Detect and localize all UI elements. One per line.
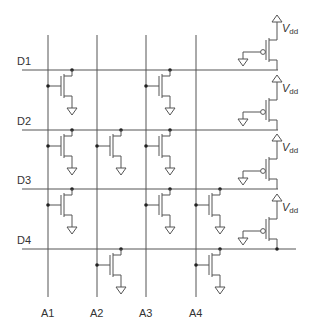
pmos-pullups: VddVddVddVdd: [238, 15, 298, 251]
source-lead: [212, 275, 220, 287]
data-label: D4: [17, 234, 31, 246]
vdd-label: Vdd: [282, 82, 298, 96]
nmos-transistor-d3-a1: [46, 187, 77, 234]
ground-icon: [215, 227, 225, 234]
gate-bubble: [261, 169, 266, 174]
nmos-transistor-d4-a2: [95, 247, 126, 294]
gate-lead: [243, 171, 261, 178]
ground-icon: [238, 119, 248, 126]
address-lines: A1A2A3A4: [41, 35, 202, 319]
junction-dot: [144, 84, 148, 88]
source-lead: [162, 96, 170, 108]
nmos-transistor-d3-a4: [194, 187, 225, 234]
source-lead: [64, 215, 72, 227]
ground-icon: [116, 168, 126, 175]
vdd-supply-icon: [272, 15, 282, 22]
source-lead: [269, 22, 277, 40]
nmos-transistor-d1-a1: [46, 68, 77, 115]
junction-dot: [275, 247, 279, 251]
junction-dot: [46, 203, 50, 207]
junction-dot: [46, 144, 50, 148]
gate-bubble: [261, 229, 266, 234]
pmos-pullup-d1: Vdd: [238, 15, 298, 70]
vdd-label: Vdd: [282, 201, 298, 215]
address-label: A1: [41, 307, 54, 319]
data-label: D1: [17, 55, 31, 67]
nmos-transistor-d1-a3: [144, 68, 175, 115]
junction-dot: [95, 144, 99, 148]
vdd-label-sub: dd: [289, 146, 298, 155]
ground-icon: [215, 287, 225, 294]
source-lead: [212, 215, 220, 227]
gate-bubble: [261, 50, 266, 55]
gate-bubble: [261, 110, 266, 115]
data-label: D3: [17, 174, 31, 186]
source-lead: [269, 201, 277, 219]
vdd-supply-icon: [272, 134, 282, 141]
vdd-label-sub: dd: [289, 87, 298, 96]
ground-icon: [67, 227, 77, 234]
nmos-transistor-d2-a2: [95, 128, 126, 175]
nmos-transistors: [46, 68, 225, 294]
junction-dot: [144, 144, 148, 148]
ground-icon: [238, 238, 248, 245]
drain-lead: [269, 179, 277, 189]
junction-dot: [194, 203, 198, 207]
drain-lead: [269, 120, 277, 130]
source-lead: [162, 156, 170, 168]
gate-lead: [243, 52, 261, 59]
data-lines: D1D2D3D4: [17, 55, 296, 249]
source-lead: [162, 215, 170, 227]
vdd-label-sub: dd: [289, 27, 298, 36]
nmos-transistor-d2-a1: [46, 128, 77, 175]
ground-icon: [67, 168, 77, 175]
vdd-label: Vdd: [282, 141, 298, 155]
nmos-transistor-d2-a3: [144, 128, 175, 175]
junction-dot: [95, 263, 99, 267]
junction-dot: [46, 84, 50, 88]
ground-icon: [238, 178, 248, 185]
gate-lead: [243, 112, 261, 119]
junction-dot: [144, 203, 148, 207]
junction-dot: [194, 263, 198, 267]
source-lead: [64, 156, 72, 168]
pmos-pullup-d4: Vdd: [238, 194, 298, 251]
gate-lead: [243, 231, 261, 238]
vdd-label: Vdd: [282, 22, 298, 36]
ground-icon: [67, 108, 77, 115]
vdd-supply-icon: [272, 75, 282, 82]
source-lead: [269, 141, 277, 159]
vdd-supply-icon: [272, 194, 282, 201]
ground-icon: [165, 108, 175, 115]
data-label: D2: [17, 115, 31, 127]
source-lead: [64, 96, 72, 108]
address-label: A2: [90, 307, 103, 319]
source-lead: [269, 82, 277, 100]
address-label: A4: [189, 307, 202, 319]
ground-icon: [238, 59, 248, 66]
drain-lead: [269, 239, 277, 249]
source-lead: [113, 275, 121, 287]
nmos-transistor-d3-a3: [144, 187, 175, 234]
drain-lead: [269, 60, 277, 70]
rom-circuit-diagram: A1A2A3A4 D1D2D3D4 VddVddVddVdd: [0, 0, 314, 333]
ground-icon: [165, 168, 175, 175]
vdd-label-sub: dd: [289, 206, 298, 215]
pmos-pullup-d2: Vdd: [238, 75, 298, 130]
address-label: A3: [139, 307, 152, 319]
source-lead: [113, 156, 121, 168]
ground-icon: [116, 287, 126, 294]
pmos-pullup-d3: Vdd: [238, 134, 298, 189]
nmos-transistor-d4-a4: [194, 247, 225, 294]
ground-icon: [165, 227, 175, 234]
